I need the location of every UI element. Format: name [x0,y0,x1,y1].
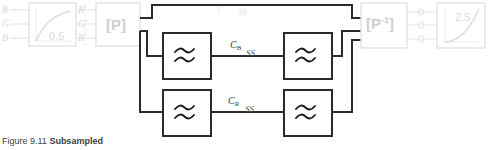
primed-label-r: R' [78,5,86,15]
input-label-b: B [2,33,8,43]
luma-subsample-mark: SS [238,7,247,17]
gamma-encode-exponent: 0.5 [49,31,64,42]
chroma-cb-subsample-mark: SS [246,48,255,58]
filter-box-cb-output [284,33,332,79]
cb-output-wire [332,31,361,56]
input-label-r: R [2,5,8,15]
gamma-decode-exponent: 2.5 [455,12,470,23]
rgb-input-lines [10,10,29,38]
input-label-g: G [2,19,9,29]
figure-container: R G B 0.5 R' G' B' [P] Y' SS CB SS CR SS… [0,0,493,150]
chroma-cr-subsample-mark: SS [245,104,254,114]
filter-box-cb-input [163,33,211,79]
cb-input-wire [140,31,163,56]
figure-caption-title: Subsampled [49,136,103,146]
block-diagram-canvas [0,0,493,150]
primed-label-b: B' [78,33,86,43]
rgb-output-lines [407,12,437,39]
filter-box-cr-output [284,90,332,136]
figure-caption-prefix: Figure 9.11 [2,136,47,146]
filter-box-cr-input [163,90,211,136]
cr-input-wire [140,31,163,112]
primed-label-g: G' [78,19,87,29]
cr-output-wire [332,40,361,112]
luma-label: Y' [216,5,224,15]
figure-caption: Figure 9.11 Subsampled [2,136,103,146]
chroma-cr-label: CR [228,96,239,106]
matrix-p-label: [P] [106,17,126,32]
luma-path-wire [140,5,361,18]
chroma-cb-label: CB [230,40,241,50]
matrix-p-inverse-label: [P-1] [366,16,394,31]
